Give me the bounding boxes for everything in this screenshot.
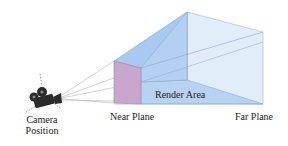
far-plane-label: Far Plane <box>235 111 273 122</box>
near-plane <box>114 61 141 104</box>
camera-label-line1: Camera <box>17 114 67 125</box>
camera-position-label: Camera Position <box>17 114 67 136</box>
near-plane-label: Near Plane <box>110 111 154 122</box>
render-area-label: Render Area <box>155 89 205 100</box>
camera-label-line2: Position <box>17 125 67 136</box>
movie-camera-icon <box>26 74 62 112</box>
